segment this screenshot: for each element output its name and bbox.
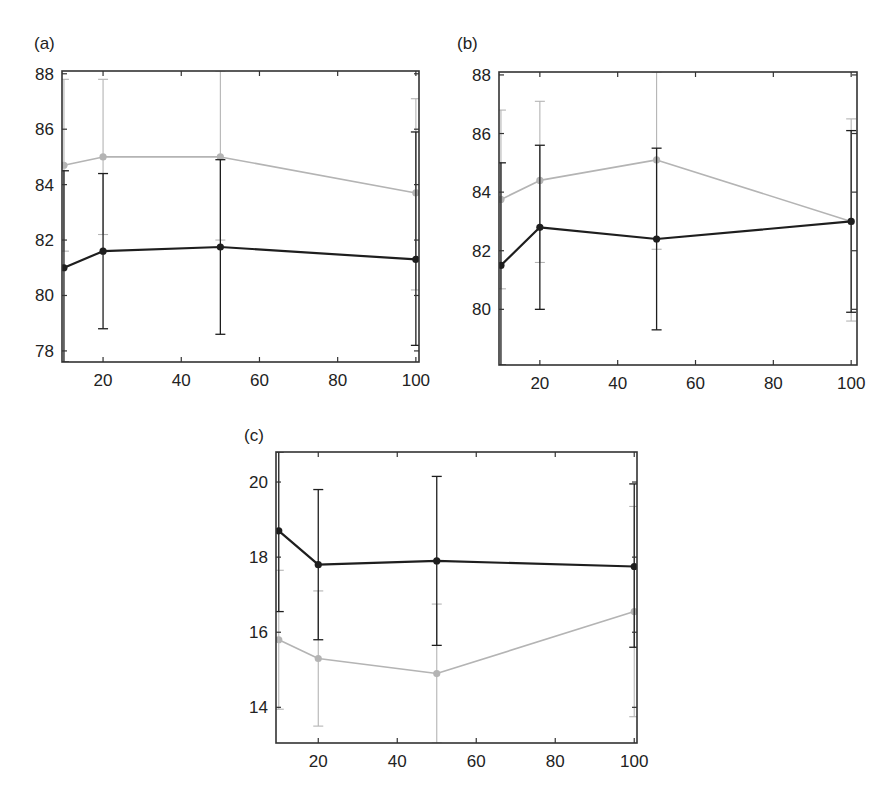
x-tick-label: 20	[530, 374, 549, 393]
y-tick-label: 16	[249, 623, 268, 642]
y-tick-label: 18	[249, 548, 268, 567]
x-tick-label: 100	[402, 371, 430, 390]
x-tick-label: 100	[837, 374, 865, 393]
x-tick-label: 60	[467, 752, 486, 771]
y-tick-label: 82	[472, 242, 491, 261]
x-tick-label: 40	[388, 752, 407, 771]
x-tick-label: 60	[686, 374, 705, 393]
panel-label-c: (c)	[244, 426, 264, 445]
figure: (a) 20406080100788082848688 (b) 20406080…	[0, 0, 889, 795]
series-dark	[274, 452, 639, 647]
data-point-marker	[433, 670, 440, 677]
data-point-marker	[315, 655, 322, 662]
panel-label-b: (b)	[457, 34, 478, 53]
x-tick-label: 80	[764, 374, 783, 393]
y-tick-label: 80	[35, 286, 54, 305]
plot-frame	[499, 72, 857, 365]
line-light	[501, 160, 851, 222]
y-tick-label: 86	[472, 125, 491, 144]
x-tick-label: 20	[309, 752, 328, 771]
x-tick-label: 40	[172, 371, 191, 390]
series-light	[496, 72, 856, 321]
y-tick-label: 78	[35, 342, 54, 361]
line-dark	[501, 221, 851, 265]
panel-a: (a) 20406080100788082848688	[34, 34, 430, 390]
data-point-marker	[99, 153, 106, 160]
y-tick-label: 80	[472, 300, 491, 319]
y-tick-label: 88	[35, 65, 54, 84]
data-point-marker	[99, 248, 106, 255]
data-point-marker	[653, 235, 660, 242]
data-point-marker	[433, 557, 440, 564]
panel-label-a: (a)	[34, 34, 55, 53]
data-point-marker	[536, 224, 543, 231]
y-tick-label: 14	[249, 698, 268, 717]
y-tick-label: 82	[35, 231, 54, 250]
panel-b: (b) 204060801008082848688	[457, 34, 865, 393]
x-tick-label: 80	[546, 752, 565, 771]
y-tick-label: 20	[249, 473, 268, 492]
x-tick-label: 20	[94, 371, 113, 390]
data-point-marker	[217, 243, 224, 250]
line-light	[279, 612, 634, 674]
plot-frame	[62, 71, 419, 362]
line-dark	[64, 247, 416, 268]
line-dark	[279, 531, 634, 567]
y-tick-label: 86	[35, 120, 54, 139]
y-tick-label: 88	[472, 66, 491, 85]
series-light	[274, 506, 639, 743]
y-tick-label: 84	[472, 183, 491, 202]
x-tick-label: 100	[620, 752, 648, 771]
line-light	[64, 157, 416, 193]
data-point-marker	[848, 218, 855, 225]
data-point-marker	[315, 561, 322, 568]
x-tick-label: 80	[328, 371, 347, 390]
series-dark	[59, 132, 421, 362]
panel-c: (c) 2040608010014161820	[244, 426, 648, 771]
x-tick-label: 60	[250, 371, 269, 390]
x-tick-label: 40	[608, 374, 627, 393]
plot-frame	[276, 452, 637, 743]
y-tick-label: 84	[35, 176, 54, 195]
